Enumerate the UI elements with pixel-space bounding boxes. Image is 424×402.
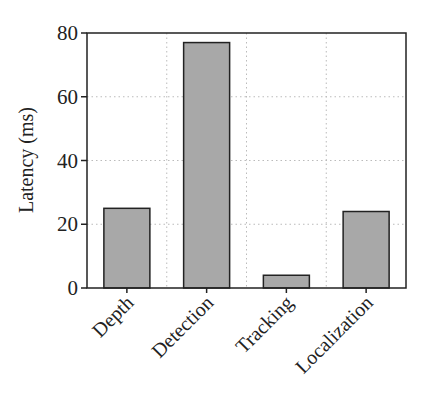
bar-localization [343,212,389,289]
x-tick-label: Depth [88,291,139,342]
latency-bar-chart: 020406080 DepthDetectionTrackingLocaliza… [0,0,424,402]
y-axis-ticks: 020406080 [57,21,87,300]
bar-detection [184,43,230,288]
y-tick-label: 60 [57,85,78,109]
y-axis-label: Latency (ms) [15,107,38,213]
y-tick-label: 20 [57,212,78,236]
y-tick-label: 40 [57,149,78,173]
x-tick-label: Localization [291,291,377,377]
y-tick-label: 80 [57,21,78,45]
y-tick-label: 0 [68,276,79,300]
x-axis-ticks: DepthDetectionTrackingLocalization [88,288,377,378]
bar-tracking [263,275,309,288]
bar-depth [104,208,150,288]
x-tick-label: Tracking [231,291,298,358]
x-tick-label: Detection [147,291,218,362]
